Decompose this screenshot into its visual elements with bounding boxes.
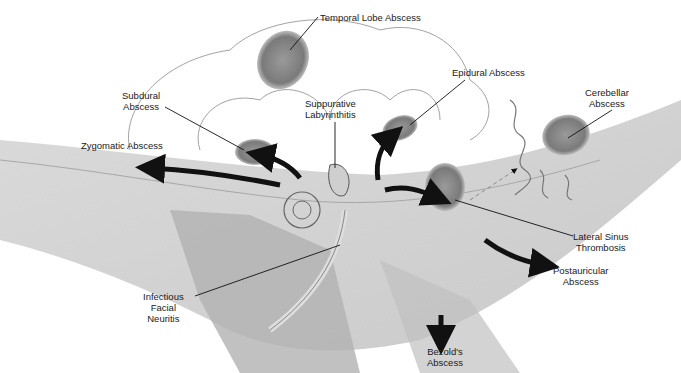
label-bezolds-abscess: Bezold's Abscess [427, 346, 463, 368]
label-epidural-abscess: Epidural Abscess [452, 67, 525, 78]
anatomical-diagram: Temporal Lobe Abscess Epidural Abscess S… [0, 0, 681, 373]
label-zygomatic-abscess: Zygomatic Abscess [81, 140, 163, 151]
label-subdural-abscess: Subdural Abscess [122, 90, 160, 112]
label-infectious-facial-neuritis: Infectious Facial Neuritis [143, 291, 184, 324]
label-postauricular-abscess: Postauricular Abscess [553, 265, 608, 287]
label-suppurative-labyrinthitis: Suppurative Labyrinthitis [305, 98, 356, 120]
label-cerebellar-abscess: Cerebellar Abscess [585, 87, 629, 109]
illustration [0, 0, 681, 373]
label-temporal-lobe-abscess: Temporal Lobe Abscess [320, 12, 421, 23]
label-lateral-sinus-thrombosis: Lateral Sinus Thrombosis [573, 231, 628, 253]
